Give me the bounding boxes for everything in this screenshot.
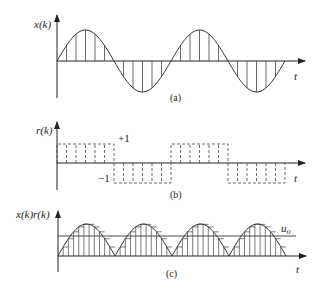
- y-axis-label: r(k): [36, 124, 53, 137]
- diagram: x(k) t (a) r(k) t +1 −1 (b) x(k)r(k) t u…: [0, 0, 317, 295]
- dc-level-label: uo: [281, 222, 291, 236]
- caption: (b): [170, 189, 182, 201]
- rectified-curve: [58, 224, 286, 256]
- y-axis-label: x(k)r(k): [15, 208, 50, 221]
- x-axis-label: t: [294, 70, 298, 82]
- x-axis-label: t: [296, 263, 300, 275]
- panel-a: x(k) t (a): [33, 15, 305, 104]
- caption: (a): [170, 92, 181, 104]
- y-axis-label: x(k): [33, 18, 51, 31]
- level-plus-one: +1: [118, 132, 130, 144]
- level-minus-one: −1: [98, 172, 110, 184]
- panel-b: r(k) t +1 −1 (b): [36, 122, 305, 201]
- caption: (c): [166, 268, 177, 280]
- panel-c: x(k)r(k) t uo (c): [15, 208, 306, 280]
- x-axis-label: t: [294, 172, 298, 184]
